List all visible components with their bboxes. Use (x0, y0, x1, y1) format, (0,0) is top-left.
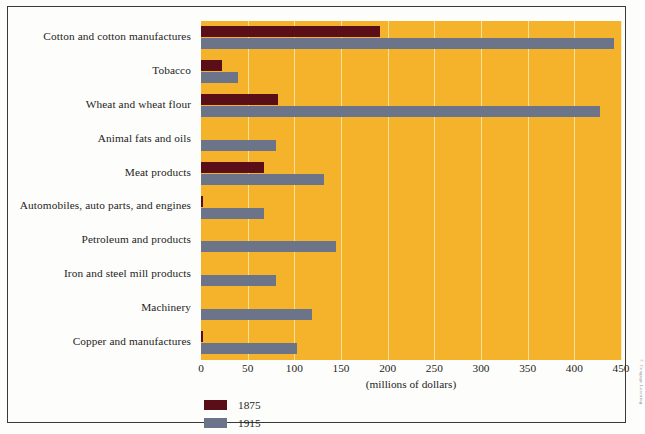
x-tick-label: 100 (286, 362, 303, 374)
bar-1875 (201, 94, 278, 105)
legend-label: 1875 (238, 399, 261, 411)
bar-1875 (201, 196, 203, 207)
category-label: Iron and steel mill products (17, 267, 191, 279)
bar-1875 (201, 26, 380, 37)
credit-label: © Cengage Learning (639, 359, 644, 404)
bar-group (201, 258, 621, 292)
bar-1915 (201, 106, 600, 117)
category-label: Wheat and wheat flour (17, 98, 191, 110)
bar-group (201, 21, 621, 55)
category-label: Automobiles, auto parts, and engines (17, 199, 191, 211)
bar-1875 (201, 331, 203, 342)
x-tick-label: 300 (473, 362, 490, 374)
bar-group (201, 292, 621, 326)
bar-1915 (201, 174, 324, 185)
legend-item[interactable]: 1915 (204, 415, 384, 430)
bar-1915 (201, 140, 276, 151)
plot-area (201, 21, 621, 360)
legend-swatch (204, 400, 227, 410)
x-tick-label: 0 (198, 362, 204, 374)
figure-frame: Cotton and cotton manufacturesTobaccoWhe… (7, 6, 626, 423)
bar-1915 (201, 343, 297, 354)
bar-1915 (201, 275, 276, 286)
category-label: Petroleum and products (17, 233, 191, 245)
x-tick-label: 150 (333, 362, 350, 374)
bar-1915 (201, 38, 614, 49)
bar-group (201, 55, 621, 89)
x-tick-label: 200 (379, 362, 396, 374)
credit-text: © Cengage Learning (635, 359, 645, 434)
bar-1875 (201, 60, 222, 71)
bar-group (201, 224, 621, 258)
x-axis-title: (millions of dollars) (201, 378, 621, 390)
gridline (621, 21, 622, 360)
chart-legend: 18751915 (204, 397, 384, 433)
x-tick-label: 450 (613, 362, 630, 374)
category-label: Tobacco (17, 64, 191, 76)
category-label: Machinery (17, 301, 191, 313)
category-label: Copper and manufactures (17, 335, 191, 347)
bar-1915 (201, 208, 264, 219)
bar-1915 (201, 241, 336, 252)
x-tick-label: 400 (566, 362, 583, 374)
bar-group (201, 191, 621, 225)
bar-1915 (201, 309, 312, 320)
bar-group (201, 326, 621, 360)
bar-1915 (201, 72, 238, 83)
bar-group (201, 123, 621, 157)
category-axis-labels: Cotton and cotton manufacturesTobaccoWhe… (22, 21, 196, 360)
category-label: Cotton and cotton manufactures (17, 30, 191, 42)
x-tick-label: 350 (519, 362, 536, 374)
legend-label: 1915 (238, 417, 261, 429)
bar-1875 (201, 162, 264, 173)
legend-swatch (204, 418, 227, 428)
legend-item[interactable]: 1875 (204, 397, 384, 412)
category-label: Animal fats and oils (17, 132, 191, 144)
x-tick-label: 250 (426, 362, 443, 374)
category-label: Meat products (17, 166, 191, 178)
bar-group (201, 157, 621, 191)
x-axis-ticks: 050100150200250300350400450 (201, 362, 621, 378)
x-tick-label: 50 (242, 362, 253, 374)
bar-group (201, 89, 621, 123)
